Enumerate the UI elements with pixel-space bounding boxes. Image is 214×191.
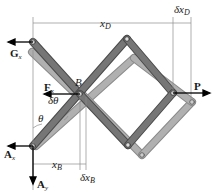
label-B: B bbox=[75, 76, 82, 88]
label-A-y: Ay bbox=[37, 178, 49, 191]
label-A-x: Ax bbox=[4, 148, 16, 162]
label-G-x: Gx bbox=[10, 47, 23, 61]
label-x-D: xD bbox=[99, 17, 111, 31]
scissor-linkage-diagram: xD δxD Gx Fx B P δθ θ Ax Ay xB δxB bbox=[0, 0, 214, 191]
label-delta-theta: δθ bbox=[48, 94, 59, 106]
label-x-B: xB bbox=[51, 158, 62, 172]
label-F-x: Fx bbox=[44, 81, 55, 95]
diagram-svg: xD δxD Gx Fx B P δθ θ Ax Ay xB δxB bbox=[0, 0, 214, 191]
label-P: P bbox=[194, 80, 201, 92]
label-theta: θ bbox=[38, 112, 44, 124]
label-delta-x-B: δxB bbox=[80, 171, 95, 185]
label-delta-x-D: δxD bbox=[174, 3, 190, 17]
